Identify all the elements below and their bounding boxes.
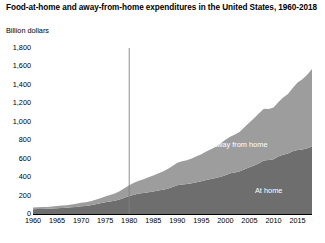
series-label-at-home: At home [255, 185, 283, 194]
x-axis-tick-1965: 1965 [49, 216, 65, 225]
y-axis-tick-1800: 1,800 [0, 44, 31, 52]
x-axis-tick-1970: 1970 [73, 216, 89, 225]
x-axis-tick-labels: 1960196519701975198019851990199520002005… [0, 216, 325, 228]
x-axis-tick-1990: 1990 [169, 216, 185, 225]
x-axis-tick-2010: 2010 [265, 216, 281, 225]
x-axis-tick-1980: 1980 [121, 216, 137, 225]
x-axis-tick-2005: 2005 [241, 216, 257, 225]
x-axis-tick-2000: 2000 [217, 216, 233, 225]
chart-title: Food-at-home and away-from-home expendit… [6, 3, 318, 14]
y-axis-tick-600: 600 [0, 155, 31, 163]
series-label-away-from-home: Away from home [212, 139, 267, 148]
y-axis-tick-200: 200 [0, 192, 31, 200]
y-axis-tick-1400: 1,400 [0, 81, 31, 89]
y-axis-tick-800: 800 [0, 136, 31, 144]
y-axis-tick-400: 400 [0, 173, 31, 181]
x-axis-tick-2015: 2015 [289, 216, 305, 225]
x-axis-tick-1960: 1960 [25, 216, 41, 225]
x-axis-tick-1975: 1975 [97, 216, 113, 225]
y-axis-tick-1600: 1,600 [0, 62, 31, 70]
y-axis-tick-1000: 1,000 [0, 118, 31, 126]
x-axis-tick-1985: 1985 [145, 216, 161, 225]
x-axis-tick-1995: 1995 [193, 216, 209, 225]
chart-container: Food-at-home and away-from-home expendit… [0, 0, 325, 243]
x-axis-baseline [33, 214, 312, 215]
y-axis-tick-1200: 1,200 [0, 99, 31, 107]
y-axis-tick-labels: 02004006008001,0001,2001,4001,6001,800 [0, 0, 31, 243]
